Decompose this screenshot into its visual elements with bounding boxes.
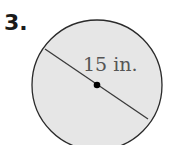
center-point (94, 82, 101, 89)
circle-diagram: 15 in. (0, 0, 170, 145)
diameter-label: 15 in. (83, 53, 138, 75)
